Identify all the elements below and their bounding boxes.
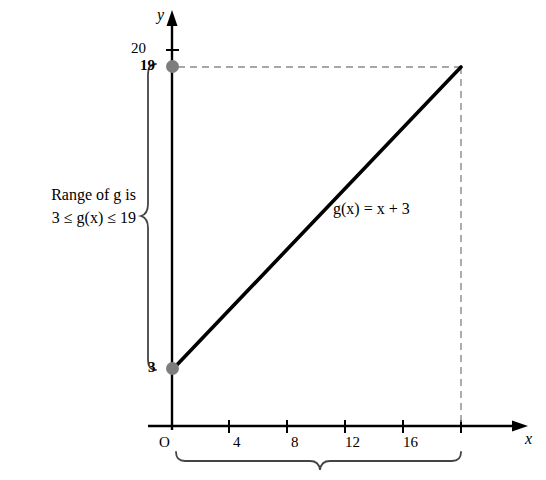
y-axis-label: y (157, 6, 164, 24)
endpoint-dot-upper (166, 60, 179, 73)
range-annotation-line1: Range of g is (18, 183, 136, 206)
x-axis (148, 421, 528, 432)
y-tick-label-19: 19 (140, 57, 155, 74)
figure-canvas: y x O 20 19 3 4 8 12 16 g(x) = x + 3 Ran… (0, 0, 546, 480)
range-brace (141, 64, 156, 370)
function-line (173, 67, 461, 369)
y-tick-label-3: 3 (148, 359, 156, 376)
x-tick-label-16: 16 (403, 434, 418, 451)
y-tick-label-20: 20 (131, 40, 146, 57)
chart-svg (0, 0, 546, 480)
dashed-guides (178, 67, 461, 424)
function-label: g(x) = x + 3 (333, 200, 410, 218)
x-tick-label-4: 4 (233, 434, 241, 451)
x-tick-label-12: 12 (345, 434, 360, 451)
endpoint-dot-lower (166, 362, 179, 375)
range-annotation-line2: 3 ≤ g(x) ≤ 19 (18, 206, 136, 229)
origin-label: O (159, 434, 170, 451)
y-axis-arrow (167, 10, 178, 26)
x-axis-label: x (525, 430, 532, 448)
domain-brace (176, 452, 461, 470)
x-tick-label-8: 8 (291, 434, 299, 451)
